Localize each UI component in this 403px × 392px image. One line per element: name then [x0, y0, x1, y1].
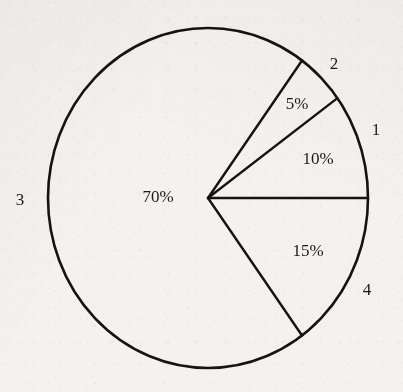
slice-outer-label-2: 2	[330, 54, 339, 73]
slice-outer-label-4: 4	[363, 280, 372, 299]
slice-divider-306deg	[208, 198, 302, 336]
pie-chart: 5% 10% 15% 70% 2 1 3 4	[0, 0, 403, 392]
pie-chart-page: 5% 10% 15% 70% 2 1 3 4	[0, 0, 403, 392]
slice-outer-label-3: 3	[16, 190, 25, 209]
slice-percent-label-2: 5%	[286, 94, 309, 113]
slice-outer-label-1: 1	[372, 120, 381, 139]
slice-percent-label-3: 70%	[142, 187, 173, 206]
slice-divider-54deg	[208, 61, 302, 199]
slice-percent-label-1: 10%	[302, 149, 333, 168]
slice-percent-label-4: 15%	[292, 241, 323, 260]
